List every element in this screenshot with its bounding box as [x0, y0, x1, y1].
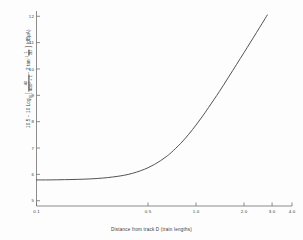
fraction-one: 4040D² + 1 — [24, 75, 33, 92]
chart-figure: 56789101112 0.10.51.02.03.04.0 10.5 − 10… — [0, 0, 303, 240]
y-expr-tan-power: −1 — [25, 56, 29, 60]
y-expr-units: (dBµA) — [26, 29, 31, 44]
x-tick-label: 4.0 — [283, 209, 301, 214]
close-bracket-icon: ] — [25, 46, 32, 48]
x-axis-title: Distance from track D (train lengths) — [0, 227, 303, 232]
fraction-two: 12D — [24, 49, 33, 55]
y-expr-minus-tan: − 2 tan — [26, 59, 31, 74]
fraction-one-denominator: 40D² + 1 — [30, 75, 34, 92]
y-tick-label: 5 — [20, 198, 34, 203]
x-tick-label: 3.0 — [263, 209, 281, 214]
y-tick-label: 6 — [20, 172, 34, 177]
y-axis-title: 10.5 − 10 Log10[4040D² + 1− 2 tan−112D] … — [24, 3, 33, 155]
x-tick-label: 1.0 — [187, 209, 205, 214]
y-tick-marks — [37, 16, 41, 200]
y-expr-log-base: 10 — [29, 95, 33, 98]
fraction-two-denominator: 2D — [30, 49, 34, 55]
x-tick-label: 0.1 — [28, 209, 46, 214]
x-tick-label: 0.5 — [139, 209, 157, 214]
axis-lines — [37, 11, 293, 206]
y-expr-prefix: 10.5 − 10 Log — [26, 98, 31, 128]
plot-canvas — [0, 0, 303, 240]
x-tick-label: 2.0 — [235, 209, 253, 214]
x-tick-marks — [37, 203, 293, 207]
data-curve-line — [37, 15, 268, 180]
